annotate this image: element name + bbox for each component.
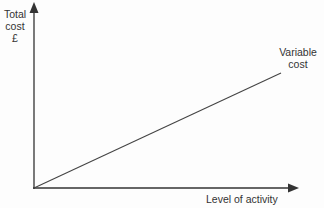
cost-diagram: Total cost £ Variable cost Level of acti… xyxy=(0,0,324,208)
x-axis-arrow-icon xyxy=(288,184,299,193)
y-axis-arrow-icon xyxy=(30,2,39,13)
variable-cost-line xyxy=(34,73,281,188)
y-axis-label-line: £ xyxy=(0,32,30,44)
x-axis-label: Level of activity xyxy=(206,193,306,205)
diagram-canvas xyxy=(0,0,324,208)
variable-cost-label-line: cost xyxy=(273,58,323,70)
y-axis-label-line: cost xyxy=(0,20,30,32)
y-axis xyxy=(30,2,39,189)
y-axis-label: Total cost £ xyxy=(0,8,30,44)
y-axis-label-line: Total xyxy=(0,8,30,20)
variable-cost-label-line: Variable xyxy=(273,46,323,58)
x-axis xyxy=(33,184,299,193)
variable-cost-label: Variable cost xyxy=(273,46,323,70)
